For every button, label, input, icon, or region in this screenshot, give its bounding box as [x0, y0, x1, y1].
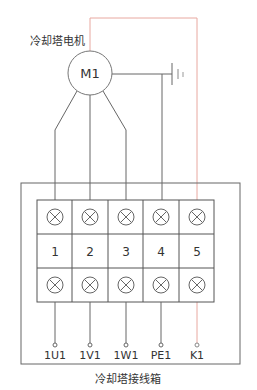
output-label-1w1: 1W1: [114, 349, 139, 362]
endpoint-icon-1v1: [88, 343, 92, 347]
terminal-number-5: 5: [193, 245, 201, 259]
output-label-k1: K1: [190, 349, 204, 362]
endpoint-icon-1w1: [124, 343, 128, 347]
wiring-diagram: 冷却塔电机 M1 1 2 3: [0, 0, 257, 390]
motor-title: 冷却塔电机: [30, 34, 85, 48]
endpoint-icon-1u1: [53, 343, 57, 347]
motor-label: M1: [80, 66, 100, 81]
terminal-number-2: 2: [86, 245, 94, 259]
endpoint-icon-k1: [195, 343, 199, 347]
motor-m1: M1: [68, 51, 112, 95]
output-label-pe1: PE1: [151, 349, 172, 362]
junction-box-caption: 冷却塔接线箱: [95, 372, 161, 386]
output-label-1u1: 1U1: [44, 349, 66, 362]
control-wire-k1: [90, 18, 197, 200]
terminal-number-1: 1: [51, 245, 59, 259]
phase-wire-u: [55, 91, 77, 200]
terminal-number-4: 4: [157, 245, 165, 259]
endpoint-icon-pe1: [159, 343, 163, 347]
output-label-1v1: 1V1: [79, 349, 101, 362]
ground-icon: [172, 63, 183, 85]
terminal-number-3: 3: [122, 245, 130, 259]
phase-wire-w: [103, 91, 126, 200]
